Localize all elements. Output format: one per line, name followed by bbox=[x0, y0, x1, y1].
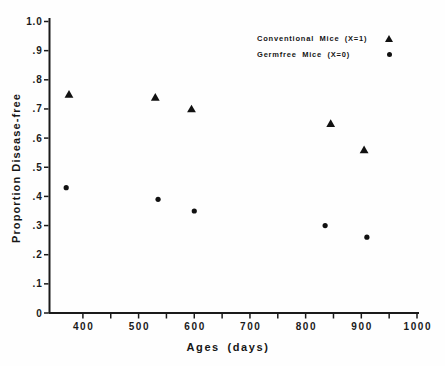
y-tick-label: .9 bbox=[33, 45, 43, 56]
y-tick-label: 0 bbox=[36, 308, 42, 319]
dot-marker-icon bbox=[387, 52, 392, 57]
y-tick-label: .5 bbox=[33, 162, 43, 173]
x-tick-label: 900 bbox=[351, 321, 373, 332]
x-tick-label: 400 bbox=[73, 321, 95, 332]
data-point-germfree bbox=[192, 208, 197, 213]
data-point-conventional bbox=[326, 119, 335, 127]
x-tick-label: 600 bbox=[184, 321, 206, 332]
y-tick-label: .7 bbox=[33, 103, 43, 114]
y-axis-title: Proportion Disease-free bbox=[10, 93, 22, 243]
y-tick-label: .4 bbox=[33, 191, 43, 202]
y-tick-label: .2 bbox=[33, 249, 43, 260]
legend-label-germfree: Germfree Mice (X=0) bbox=[257, 50, 350, 59]
data-point-conventional bbox=[360, 145, 369, 153]
x-tick-label: 1000 bbox=[403, 321, 432, 332]
legend-label-conventional: Conventional Mice (X=1) bbox=[257, 34, 367, 43]
survival-scatter-figure: 0.1.2.3.4.5.6.7.8.91.0400500600700800900… bbox=[0, 0, 445, 366]
x-tick-label: 500 bbox=[129, 321, 151, 332]
data-point-conventional bbox=[187, 105, 196, 113]
legend-row-conventional: Conventional Mice (X=1) bbox=[257, 32, 393, 44]
legend-row-germfree: Germfree Mice (X=0) bbox=[257, 48, 393, 60]
x-axis-title: Ages (days) bbox=[28, 341, 428, 353]
y-tick-label: .8 bbox=[33, 74, 43, 85]
data-point-conventional bbox=[65, 90, 74, 98]
data-point-germfree bbox=[155, 197, 160, 202]
y-tick-label: .1 bbox=[33, 278, 43, 289]
x-tick-label: 800 bbox=[296, 321, 318, 332]
y-tick-label: .6 bbox=[33, 133, 43, 144]
data-point-germfree bbox=[64, 185, 69, 190]
data-point-conventional bbox=[151, 93, 160, 101]
legend: Conventional Mice (X=1) Germfree Mice (X… bbox=[257, 32, 393, 64]
y-tick-label: 1.0 bbox=[26, 16, 42, 27]
y-tick-label: .3 bbox=[33, 220, 43, 231]
data-point-germfree bbox=[323, 223, 328, 228]
triangle-marker-icon bbox=[385, 35, 393, 42]
x-tick-label: 700 bbox=[240, 321, 262, 332]
data-point-germfree bbox=[364, 235, 369, 240]
